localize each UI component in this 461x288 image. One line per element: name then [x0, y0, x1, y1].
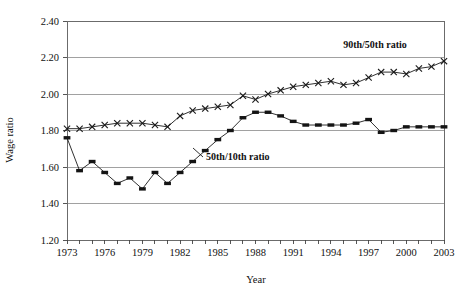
data-point-marker: [277, 114, 284, 117]
series-label-50th-10th: 50th/10th ratio: [206, 151, 270, 162]
data-point-marker: [177, 171, 184, 174]
data-point-marker: [214, 138, 221, 141]
data-point-marker: [428, 125, 435, 128]
series-90th-50th-ratio: [64, 58, 447, 132]
x-axis-tick-labels: 1973197619791982198519881991199419972000…: [57, 247, 455, 258]
data-point-marker: [126, 176, 133, 179]
y-tick-label: 1.40: [41, 198, 59, 209]
data-point-marker: [189, 160, 196, 163]
series-line: [67, 61, 444, 129]
y-axis-tick-labels: 1.201.401.601.802.002.202.40: [41, 16, 59, 246]
data-point-marker: [89, 160, 96, 163]
x-tick-label: 1973: [57, 247, 78, 258]
data-point-marker: [64, 136, 71, 139]
y-tick-label: 1.80: [41, 125, 59, 136]
data-point-marker: [252, 111, 259, 114]
series-label-90th-50th: 90th/50th ratio: [343, 39, 407, 50]
data-point-marker: [227, 129, 234, 132]
data-point-marker: [240, 116, 247, 119]
x-tick-label: 1997: [358, 247, 379, 258]
x-axis-title: Year: [246, 274, 266, 285]
data-point-marker: [139, 187, 146, 190]
data-point-marker: [365, 118, 372, 121]
data-point-marker: [290, 120, 297, 123]
data-point-marker: [101, 171, 108, 174]
chart-container: 1.201.401.601.802.002.202.40 19731976197…: [0, 0, 461, 288]
y-tick-label: 1.20: [41, 235, 59, 246]
data-point-marker: [265, 111, 272, 114]
data-point-marker: [164, 182, 171, 185]
x-tick-label: 1994: [320, 247, 342, 258]
data-point-marker: [390, 129, 397, 132]
x-tick-label: 2000: [396, 247, 417, 258]
x-tick-label: 1988: [245, 247, 266, 258]
x-tick-label: 1991: [283, 247, 304, 258]
x-tick-label: 1985: [207, 247, 228, 258]
data-point-marker: [315, 123, 322, 126]
data-point-marker: [302, 123, 309, 126]
gridlines-group: [67, 21, 444, 240]
x-tick-marks-group: [67, 240, 444, 244]
x-tick-label: 1976: [94, 247, 115, 258]
y-tick-label: 1.60: [41, 162, 59, 173]
x-tick-label: 2003: [434, 247, 455, 258]
data-point-marker: [114, 182, 121, 185]
data-point-marker: [328, 123, 335, 126]
x-tick-label: 1982: [170, 247, 191, 258]
data-point-marker: [340, 123, 347, 126]
y-axis-title: Wage ratio: [4, 117, 15, 163]
y-tick-label: 2.20: [41, 52, 59, 63]
data-point-marker: [152, 171, 159, 174]
data-point-marker: [378, 131, 385, 134]
data-point-marker: [415, 125, 422, 128]
y-tick-label: 2.00: [41, 89, 59, 100]
x-tick-label: 1979: [132, 247, 153, 258]
data-point-marker: [403, 125, 410, 128]
data-point-marker: [76, 169, 83, 172]
data-point-marker: [353, 122, 360, 125]
series-label-leader-line: [193, 148, 203, 157]
y-tick-label: 2.40: [41, 16, 59, 27]
data-point-marker: [441, 125, 448, 128]
wage-ratio-line-chart: 1.201.401.601.802.002.202.40 19731976197…: [0, 0, 461, 288]
